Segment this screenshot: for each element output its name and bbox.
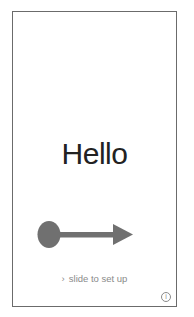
slide-to-setup[interactable]: ›slide to set up xyxy=(13,273,176,284)
info-icon[interactable]: i xyxy=(161,292,171,302)
phone-screen: Hello ›slide to set up i xyxy=(12,11,177,307)
slide-to-setup-label: slide to set up xyxy=(69,273,128,284)
greeting-title: Hello xyxy=(13,137,176,171)
swipe-right-arrow-icon xyxy=(37,220,133,250)
chevron-right-icon: › xyxy=(62,273,65,284)
